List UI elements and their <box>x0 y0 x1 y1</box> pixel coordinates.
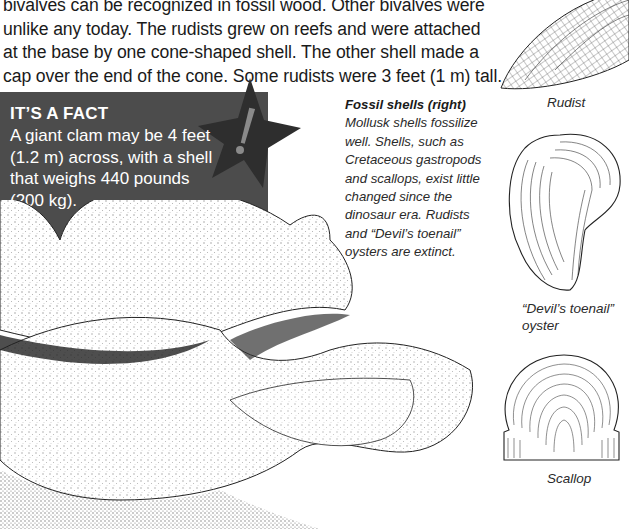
caption-line: oysters are extinct. <box>345 243 495 261</box>
fact-line: A giant clam may be 4 feet <box>10 125 250 147</box>
caption-line: Cretaceous gastropods <box>345 151 495 169</box>
caption-line: and “Devil’s toenail” <box>345 225 495 243</box>
fact-body: A giant clam may be 4 feet (1.2 m) acros… <box>10 125 250 211</box>
body-line: unlike any today. The rudists grew on re… <box>3 18 503 42</box>
fossil-shells-caption: Fossil shells (right) Mollusk shells fos… <box>345 96 495 262</box>
scallop-illustration <box>494 350 627 465</box>
devils-toenail-oyster-illustration <box>500 130 625 295</box>
rudist-illustration <box>495 0 629 92</box>
fact-line: that weighs 440 pounds <box>10 168 250 190</box>
scallop-label: Scallop <box>547 470 591 487</box>
devils-toenail-label-line: oyster <box>522 317 614 334</box>
body-line: at the base by one cone-shaped shell. Th… <box>3 41 503 65</box>
caption-line: well. Shells, such as <box>345 133 495 151</box>
body-line: bivalves can be recognized in fossil woo… <box>3 0 503 18</box>
fact-title: IT’S A FACT <box>10 103 250 125</box>
devils-toenail-label: “Devil’s toenail” oyster <box>522 300 614 334</box>
caption-line: Mollusk shells fossilize <box>345 114 495 132</box>
caption-line: and scallops, exist little <box>345 170 495 188</box>
body-paragraph: bivalves can be recognized in fossil woo… <box>3 0 503 88</box>
devils-toenail-label-line: “Devil’s toenail” <box>522 300 614 317</box>
caption-line: changed since the <box>345 188 495 206</box>
fact-box-content: IT’S A FACT A giant clam may be 4 feet (… <box>10 103 250 211</box>
caption-line: dinosaur era. Rudists <box>345 206 495 224</box>
fact-line: (1.2 m) across, with a shell <box>10 147 250 169</box>
caption-title: Fossil shells (right) <box>345 96 495 114</box>
rudist-label: Rudist <box>547 94 585 111</box>
